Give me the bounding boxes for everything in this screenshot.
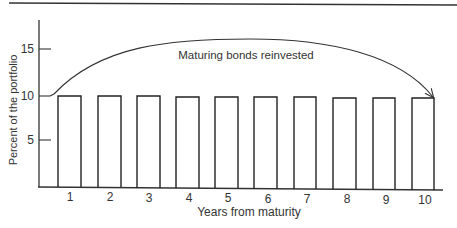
bar-10 (412, 98, 434, 190)
bars (58, 96, 434, 190)
x-axis-label: Years from maturity (197, 205, 301, 219)
ytick-label-15: 15 (21, 42, 35, 56)
xtick-label: 8 (344, 192, 351, 206)
bar-6 (254, 97, 277, 189)
bar-4 (176, 97, 199, 188)
xtick-label: 4 (186, 191, 193, 205)
bar-3 (137, 96, 160, 188)
bar-9 (373, 98, 395, 189)
xtick-label: 6 (265, 192, 272, 206)
bar-8 (333, 98, 356, 189)
chart: 15 10 5 Percent of the portfolio 1 2 3 4… (0, 0, 457, 228)
ytick-label-5: 5 (27, 133, 34, 147)
xtick-label: 1 (67, 190, 74, 204)
x-axis (38, 187, 443, 190)
annotation-label: Maturing bonds reinvested (178, 49, 314, 61)
xtick-label: 7 (304, 192, 311, 206)
y-axis-label: Percent of the portfolio (7, 55, 19, 166)
bar-7 (294, 97, 316, 189)
top-rule (9, 3, 457, 5)
xtick-label: 2 (107, 190, 114, 204)
bar-1 (58, 96, 81, 187)
ytick-label-10: 10 (21, 89, 35, 103)
bar-2 (98, 96, 121, 187)
xtick-label: 9 (383, 193, 390, 207)
reinvestment-arrow (50, 39, 433, 97)
xtick-label: 10 (418, 193, 432, 207)
xtick-label: 3 (146, 191, 153, 205)
xtick-label: 5 (225, 191, 232, 205)
bar-5 (215, 97, 238, 188)
